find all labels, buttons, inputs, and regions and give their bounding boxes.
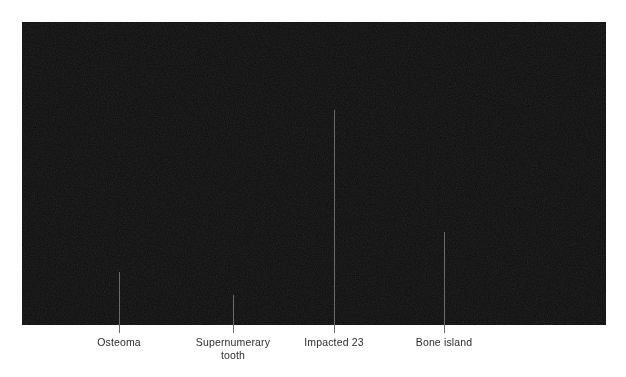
label-impacted-23: Impacted 23 <box>304 336 363 349</box>
leader-line-impacted-23 <box>334 110 335 333</box>
leader-line-bone-island <box>444 232 445 333</box>
label-supernumerary-tooth: Supernumerary tooth <box>196 336 270 361</box>
panoramic-radiograph-image <box>22 22 606 325</box>
label-bone-island: Bone island <box>416 336 473 349</box>
leader-line-osteoma <box>119 272 120 333</box>
label-osteoma: Osteoma <box>97 336 141 349</box>
leader-line-supernumerary-tooth <box>233 295 234 333</box>
radiograph-figure: Osteoma Supernumerary tooth Impacted 23 … <box>0 0 626 377</box>
